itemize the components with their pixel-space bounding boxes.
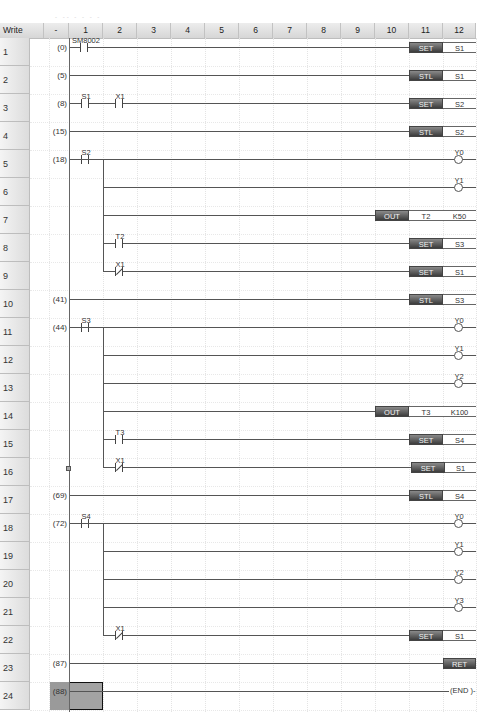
row-number[interactable]: 2 <box>0 66 30 94</box>
set-operand[interactable]: S4 <box>443 434 476 445</box>
row-number[interactable]: 21 <box>0 598 30 626</box>
col-header-7: 7 <box>273 23 307 38</box>
step-number: (0) <box>32 43 67 52</box>
grid-line <box>30 122 476 123</box>
row-number[interactable]: 19 <box>0 542 30 570</box>
stl-operand[interactable]: S3 <box>443 294 476 305</box>
end-instruction[interactable]: (END )- <box>449 686 476 695</box>
row-number[interactable]: 12 <box>0 346 30 374</box>
output-coil-icon[interactable] <box>454 351 463 360</box>
grid-line <box>30 206 476 207</box>
stl-instruction[interactable]: STL <box>409 294 443 305</box>
wire <box>103 579 476 580</box>
no-contact-icon[interactable] <box>115 239 125 248</box>
no-contact-icon[interactable] <box>115 99 125 108</box>
wire <box>70 299 409 300</box>
wire <box>103 215 375 216</box>
no-contact-icon[interactable] <box>81 99 91 108</box>
row-number[interactable]: 16 <box>0 458 30 486</box>
mode-label: Write <box>0 23 44 38</box>
row-number[interactable]: 11 <box>0 318 30 346</box>
step-number: (5) <box>32 71 67 80</box>
set-instruction[interactable]: SET <box>409 238 443 249</box>
wire <box>103 635 409 636</box>
row-number[interactable]: 24 <box>0 682 30 710</box>
set-operand[interactable]: S1 <box>443 630 476 641</box>
stl-instruction[interactable]: STL <box>409 490 443 501</box>
step-number: (41) <box>32 295 67 304</box>
set-operand[interactable]: S3 <box>443 238 476 249</box>
col-header-5: 5 <box>205 23 239 38</box>
row-number[interactable]: 20 <box>0 570 30 598</box>
wire <box>70 327 476 328</box>
output-coil-icon[interactable] <box>454 603 463 612</box>
set-operand[interactable]: S1 <box>443 266 476 277</box>
output-coil-icon[interactable] <box>454 323 463 332</box>
row-number[interactable]: 17 <box>0 486 30 514</box>
wire <box>70 523 476 524</box>
wire <box>103 439 409 440</box>
out-instruction[interactable]: OUT <box>375 406 409 417</box>
wire <box>70 75 409 76</box>
wire <box>103 187 476 188</box>
nc-contact-icon[interactable] <box>115 631 125 640</box>
output-coil-icon[interactable] <box>454 379 463 388</box>
stl-instruction[interactable]: STL <box>409 126 443 137</box>
branch-wire <box>103 327 104 468</box>
no-contact-icon[interactable] <box>80 43 90 52</box>
grid-line <box>307 38 308 712</box>
output-coil-icon[interactable] <box>454 183 463 192</box>
timer-operand[interactable]: T3 <box>409 406 443 417</box>
output-coil-icon[interactable] <box>454 575 463 584</box>
grid-line <box>239 38 240 712</box>
set-instruction[interactable]: SET <box>409 42 443 53</box>
row-number[interactable]: 23 <box>0 654 30 682</box>
stl-operand[interactable]: S4 <box>443 490 476 501</box>
row-number[interactable]: 1 <box>0 38 30 66</box>
set-instruction[interactable]: SET <box>409 98 443 109</box>
stl-operand[interactable]: S2 <box>443 126 476 137</box>
timer-constant[interactable]: K50 <box>443 210 476 221</box>
timer-operand[interactable]: T2 <box>409 210 443 221</box>
output-coil-icon[interactable] <box>454 547 463 556</box>
wire <box>103 467 411 468</box>
ret-instruction[interactable]: RET <box>443 658 476 669</box>
set-operand[interactable]: S1 <box>443 42 476 53</box>
row-number[interactable]: 22 <box>0 626 30 654</box>
row-number[interactable]: 15 <box>0 430 30 458</box>
set-instruction[interactable]: SET <box>409 630 443 641</box>
nc-contact-icon[interactable] <box>115 267 125 276</box>
row-number[interactable]: 6 <box>0 178 30 206</box>
nc-contact-icon[interactable] <box>115 463 125 472</box>
row-number[interactable]: 13 <box>0 374 30 402</box>
stl-instruction[interactable]: STL <box>409 70 443 81</box>
set-instruction[interactable]: SET <box>409 266 443 277</box>
grid-line <box>443 38 444 712</box>
row-number[interactable]: 18 <box>0 514 30 542</box>
step-number: (87) <box>32 659 67 668</box>
row-number[interactable]: 4 <box>0 122 30 150</box>
output-coil-icon[interactable] <box>454 519 463 528</box>
col-header-10: 10 <box>375 23 409 38</box>
row-number[interactable]: 8 <box>0 234 30 262</box>
output-coil-icon[interactable] <box>454 155 463 164</box>
step-number: (18) <box>32 155 67 164</box>
col-header-8: 8 <box>307 23 341 38</box>
row-number[interactable]: 14 <box>0 402 30 430</box>
timer-constant[interactable]: K100 <box>443 406 476 417</box>
grid-line <box>30 458 476 459</box>
stl-operand[interactable]: S1 <box>443 70 476 81</box>
row-number[interactable]: 3 <box>0 94 30 122</box>
out-instruction[interactable]: OUT <box>375 210 409 221</box>
grid-line <box>273 38 274 712</box>
row-number[interactable]: 7 <box>0 206 30 234</box>
row-number[interactable]: 9 <box>0 262 30 290</box>
set-operand[interactable]: S2 <box>443 98 476 109</box>
edit-cursor[interactable] <box>69 682 103 710</box>
set-instruction[interactable]: SET <box>411 462 445 473</box>
row-number[interactable]: 5 <box>0 150 30 178</box>
set-instruction[interactable]: SET <box>409 434 443 445</box>
set-operand[interactable]: S1 <box>445 462 476 473</box>
row-number[interactable]: 10 <box>0 290 30 318</box>
no-contact-icon[interactable] <box>115 435 125 444</box>
